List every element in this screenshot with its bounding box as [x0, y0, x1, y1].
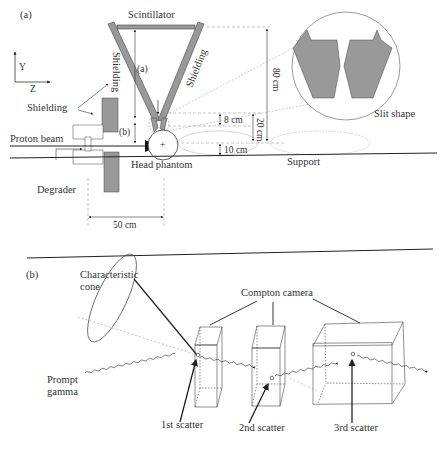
degrader-label: Degrader	[37, 184, 77, 195]
dim-50-label: 50 cm	[113, 220, 137, 230]
scatter-3-label: 3rd scatter	[334, 422, 379, 433]
detector-box-3	[313, 322, 405, 404]
dim-8-label: 8 cm	[224, 115, 243, 125]
marker-b: (b)	[119, 127, 130, 138]
scintillator	[117, 25, 195, 29]
compton-camera-label: Compton camera	[241, 287, 313, 298]
characteristic-cone	[78, 248, 146, 348]
dim-20-label: 20 cm	[255, 118, 265, 142]
svg-text:+: +	[160, 140, 165, 150]
prompt-gamma-label-2: gamma	[47, 386, 78, 397]
prompt-gamma-path	[85, 353, 175, 374]
detector-box-1	[195, 327, 222, 407]
scintillator-label: Scintillator	[128, 9, 175, 20]
shielding-label: Shielding	[27, 102, 68, 113]
head-phantom-label: Head phantom	[131, 159, 193, 170]
characteristic-cone-label-1: Characteristic	[80, 269, 139, 280]
diagram: (a) Scintillator Shielding Shielding (a)…	[0, 0, 445, 450]
characteristic-cone-label-2: cone	[80, 281, 100, 292]
axis-z-label: Z	[30, 84, 36, 94]
shielding-left-label: Shielding	[111, 52, 122, 93]
scatter-1-label: 1st scatter	[161, 419, 204, 430]
support-label: Support	[287, 156, 320, 167]
prompt-gamma-label-1: Prompt	[47, 374, 78, 385]
axis-y-label: Y	[19, 62, 26, 72]
marker-a: (a)	[137, 64, 148, 75]
panel-divider	[27, 249, 433, 258]
panel-b-label: (b)	[26, 269, 39, 281]
panel-a-label: (a)	[20, 9, 32, 21]
scatter-2-label: 2nd scatter	[239, 422, 285, 433]
proton-beam-label: Proton beam	[10, 133, 63, 144]
detector-box-2	[252, 326, 285, 406]
dim-80-label: 80 cm	[271, 68, 281, 92]
slit-shape-label: Slit shape	[374, 108, 415, 119]
dim-10-label: 10 cm	[224, 145, 248, 155]
